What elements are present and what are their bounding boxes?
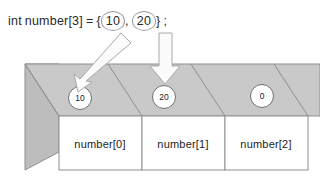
cell-label-2: number[2] (240, 138, 291, 150)
diagram-canvas: intnumber[3]={10,20}; 10 20 0 number[0] … (0, 0, 320, 179)
cell-label-0: number[0] (74, 138, 125, 150)
value-text-2: 0 (260, 91, 265, 101)
array-memory-illustration: 10 20 0 number[0] number[1] number[2] (0, 0, 320, 179)
value-text-1: 20 (159, 92, 169, 102)
cell-label-1: number[1] (157, 138, 208, 150)
value-text-0: 10 (75, 93, 85, 103)
